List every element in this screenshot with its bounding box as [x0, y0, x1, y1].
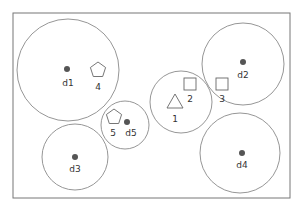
- diagram-canvas: 12345 d1d2d3d4d5: [0, 0, 307, 209]
- coverage-circle-d5: [101, 101, 149, 149]
- depot-points: d1d2d3d4d5: [62, 59, 248, 174]
- node-label: 4: [95, 82, 101, 92]
- node-label: 5: [110, 128, 116, 138]
- depot-dot-icon: [239, 150, 245, 156]
- depot-dot-icon: [240, 59, 246, 65]
- depot-label: d1: [62, 78, 73, 88]
- pentagon-icon: [90, 62, 105, 77]
- coverage-circle-c1: [150, 71, 212, 133]
- square-icon: [216, 78, 228, 90]
- depot-label: d4: [236, 160, 248, 170]
- diagram-frame: [13, 13, 290, 198]
- pentagon-icon: [106, 109, 121, 124]
- node-label: 3: [219, 94, 225, 104]
- depot-dot-icon: [64, 66, 70, 72]
- depot-label: d3: [69, 164, 80, 174]
- depot-dot-icon: [72, 154, 78, 160]
- depot-dot-icon: [124, 119, 130, 125]
- customer-nodes: 12345: [90, 62, 228, 138]
- square-icon: [184, 78, 196, 90]
- node-label: 2: [187, 94, 193, 104]
- depot-label: d5: [125, 128, 136, 138]
- triangle-icon: [167, 94, 183, 108]
- node-label: 1: [172, 114, 178, 124]
- depot-label: d2: [237, 70, 248, 80]
